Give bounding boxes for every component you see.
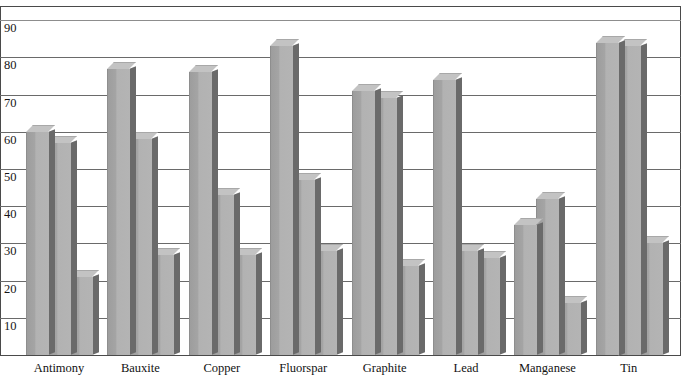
plot-right-border: [680, 6, 681, 356]
gridline-70: [0, 95, 681, 96]
y-tick-label-10: 10: [4, 320, 17, 332]
gridline-50: [0, 169, 681, 170]
y-tick-label-50: 50: [4, 171, 17, 183]
gridline-10: [0, 318, 681, 319]
x-tick-label-tin: Tin: [569, 361, 682, 375]
gridline-40: [0, 206, 681, 207]
bar-chart: 908070605040302010 AntimonyBauxiteCopper…: [0, 0, 682, 384]
y-tick-label-90: 90: [4, 22, 17, 34]
clipped-chart-title: [0, 0, 682, 1]
gridline-20: [0, 281, 681, 282]
y-tick-label-20: 20: [4, 283, 17, 295]
y-tick-label-80: 80: [4, 59, 17, 71]
gridline-90: [0, 20, 681, 21]
y-tick-label-30: 30: [4, 245, 17, 257]
gridline-30: [0, 243, 681, 244]
gridline-60: [0, 132, 681, 133]
y-tick-label-40: 40: [4, 208, 17, 220]
gridline-80: [0, 57, 681, 58]
y-axis-line: [0, 6, 1, 356]
y-tick-label-70: 70: [4, 97, 17, 109]
plot-frame: [0, 6, 681, 356]
y-tick-label-60: 60: [4, 134, 17, 146]
